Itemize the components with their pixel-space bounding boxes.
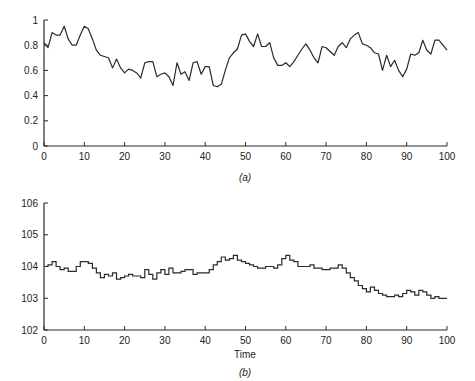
panel-b-x-axis-title: Time: [234, 349, 256, 360]
y-tick-label: 0.8: [24, 40, 38, 51]
x-tick-label: 30: [159, 151, 171, 162]
x-tick-label: 80: [361, 335, 373, 346]
x-tick-label: 60: [280, 335, 292, 346]
panel-b-caption: (b): [239, 367, 251, 378]
x-tick-label: 20: [119, 151, 131, 162]
x-tick-label: 50: [240, 335, 252, 346]
panel-a-caption: (a): [239, 172, 251, 183]
panel-b: 102103104105106 0102030405060708090100 T…: [21, 198, 455, 379]
y-tick-label: 104: [21, 261, 38, 272]
x-tick-label: 80: [361, 151, 373, 162]
x-tick-label: 10: [79, 151, 91, 162]
panel-a: 00.20.40.60.81 0102030405060708090100 (a…: [24, 15, 456, 184]
x-tick-label: 90: [401, 151, 413, 162]
x-tick-label: 60: [280, 151, 292, 162]
x-tick-label: 0: [41, 151, 47, 162]
y-tick-label: 102: [21, 325, 38, 336]
panel-b-x-ticks: 0102030405060708090100: [41, 326, 456, 346]
x-tick-label: 20: [119, 335, 131, 346]
x-tick-label: 70: [321, 151, 333, 162]
y-tick-label: 103: [21, 293, 38, 304]
x-tick-label: 0: [41, 335, 47, 346]
x-tick-label: 70: [321, 335, 333, 346]
x-tick-label: 90: [401, 335, 413, 346]
y-tick-label: 0: [32, 141, 38, 152]
x-tick-label: 100: [439, 335, 456, 346]
panel-b-axes: [44, 203, 447, 330]
panel-a-series-line: [44, 26, 447, 87]
panel-a-axes: [44, 20, 447, 146]
panel-a-x-ticks: 0102030405060708090100: [41, 142, 456, 162]
y-tick-label: 106: [21, 198, 38, 209]
x-tick-label: 50: [240, 151, 252, 162]
x-tick-label: 10: [79, 335, 91, 346]
y-tick-label: 0.4: [24, 90, 38, 101]
y-tick-label: 105: [21, 229, 38, 240]
x-tick-label: 40: [200, 335, 212, 346]
y-tick-label: 0.6: [24, 65, 38, 76]
panel-b-series-step-line: [44, 255, 447, 298]
chart-figure: 00.20.40.60.81 0102030405060708090100 (a…: [0, 0, 475, 381]
x-tick-label: 30: [159, 335, 171, 346]
y-tick-label: 0.2: [24, 115, 38, 126]
x-tick-label: 100: [439, 151, 456, 162]
y-tick-label: 1: [32, 15, 38, 26]
x-tick-label: 40: [200, 151, 212, 162]
